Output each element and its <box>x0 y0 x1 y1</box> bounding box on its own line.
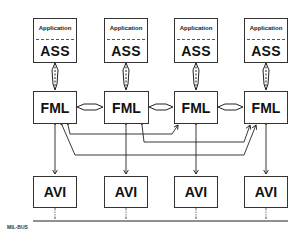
application-label: Application <box>105 25 147 31</box>
ass-label: ASS <box>34 43 76 59</box>
fml-label: FML <box>34 100 76 116</box>
application-label: Application <box>34 25 76 31</box>
avi-box-3: AVI <box>174 176 218 208</box>
avi-box-1: AVI <box>33 176 77 208</box>
dashed-divider <box>177 39 215 40</box>
application-label: Application <box>245 25 287 31</box>
avi-label: AVI <box>245 184 287 200</box>
fml-box-1: FML <box>33 91 77 124</box>
fml-box-3: FML <box>174 91 218 124</box>
ass-box-3: Application ASS <box>174 18 218 63</box>
avi-bus-links <box>55 209 266 219</box>
fml-label: FML <box>245 100 287 116</box>
fml-label: FML <box>175 100 217 116</box>
avi-label: AVI <box>105 184 147 200</box>
avi-box-2: AVI <box>104 176 148 208</box>
ass-label: ASS <box>105 43 147 59</box>
ass-fml-links <box>52 63 269 90</box>
fml-routed-links <box>62 125 256 155</box>
ass-box-1: Application ASS <box>33 18 77 63</box>
mil-bus-label: MIL-BUS <box>7 224 28 230</box>
fml-box-2: FML <box>104 91 149 124</box>
ass-label: ASS <box>245 43 287 59</box>
dashed-divider <box>36 39 74 40</box>
avi-label: AVI <box>34 184 76 200</box>
application-label: Application <box>175 25 217 31</box>
ass-box-4: Application ASS <box>244 18 288 63</box>
fml-fml-links <box>77 104 243 110</box>
dashed-divider <box>107 39 145 40</box>
ass-box-2: Application ASS <box>104 18 148 63</box>
dashed-divider <box>247 39 285 40</box>
fml-avi-links <box>55 125 266 174</box>
ass-label: ASS <box>175 43 217 59</box>
fml-box-4: FML <box>244 91 288 124</box>
avi-box-4: AVI <box>244 176 288 208</box>
avi-label: AVI <box>175 184 217 200</box>
fml-label: FML <box>105 100 148 116</box>
